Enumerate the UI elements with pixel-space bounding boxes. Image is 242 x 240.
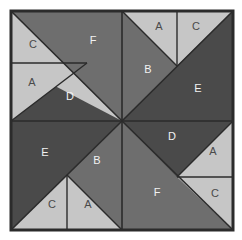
quadrant-top-right xyxy=(122,11,233,121)
piece-label-f-bottom-right: F xyxy=(154,186,161,198)
quadrant-top-left xyxy=(11,11,122,121)
quilt-figure: C F A D A C B E E B C A D A F C xyxy=(0,0,242,240)
piece-label-b-bottom-left: B xyxy=(93,154,100,166)
piece-label-d-top-left: D xyxy=(66,90,74,102)
piece-label-f-top-left: F xyxy=(90,34,97,46)
piece-label-c-top-left: C xyxy=(29,38,37,50)
piece-label-c-bottom-left: C xyxy=(48,198,56,210)
piece-label-c-top-right: C xyxy=(192,20,200,32)
quilt-block-diagram: C F A D A C B E E B C A D A F C xyxy=(0,0,242,240)
piece-label-d-bottom-right: D xyxy=(168,130,176,142)
piece-label-c-bottom-right: C xyxy=(211,187,219,199)
quadrant-bottom-right xyxy=(122,121,233,230)
piece-label-a-bottom-left: A xyxy=(84,198,92,210)
piece-label-a-bottom-right: A xyxy=(209,145,217,157)
quadrant-bottom-left xyxy=(11,121,122,230)
piece-label-e-top-right: E xyxy=(194,82,201,94)
piece-label-e-bottom-left: E xyxy=(41,146,48,158)
piece-label-a-top-left: A xyxy=(28,76,36,88)
piece-label-a-top-right: A xyxy=(155,20,163,32)
piece-label-b-top-right: B xyxy=(144,63,151,75)
